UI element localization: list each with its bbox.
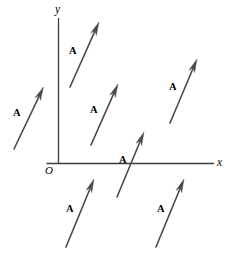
vector-middle-inner-shaft (91, 92, 115, 145)
vector-middle-inner-label: A (90, 104, 98, 115)
vector-diagram-figure: y x O AAAAAAA (0, 0, 234, 255)
vector-axis-crossing-shaft (117, 140, 141, 197)
vector-left-upper-arrowhead (35, 87, 44, 101)
vector-axis-crossing-label: A (119, 154, 127, 165)
vector-right-upper-shaft (170, 67, 194, 123)
vector-top-inner-shaft (70, 30, 96, 87)
vector-bottom-right-shaft (156, 187, 181, 247)
vector-bottom-left-label: A (66, 203, 74, 214)
vector-bottom-left-shaft (66, 187, 91, 247)
vector-bottom-right-label: A (157, 203, 165, 214)
vector-left-upper-label: A (13, 107, 21, 118)
vector-top-inner-arrowhead (91, 22, 99, 36)
y-axis-label: y (55, 3, 60, 15)
vector-right-upper-label: A (169, 81, 177, 92)
vector-left-upper (14, 87, 44, 149)
vector-diagram-canvas (0, 0, 234, 255)
vector-middle-inner-arrowhead (110, 84, 118, 98)
x-axis-label: x (217, 156, 222, 168)
vector-top-inner-label: A (69, 45, 77, 56)
origin-label: O (45, 164, 53, 176)
vector-left-upper-shaft (14, 95, 40, 149)
